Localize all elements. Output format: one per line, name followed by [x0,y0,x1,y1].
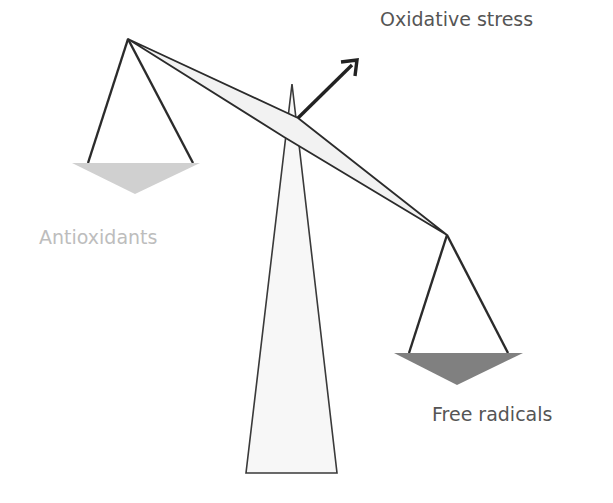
left-string-a [88,39,128,163]
label-antioxidants: Antioxidants [39,226,157,248]
free-radical-pan [394,353,523,385]
antioxidant-pan [72,163,200,194]
right-string-a [409,235,447,353]
right-string-b [447,235,508,353]
arrow-icon [298,60,357,118]
balance-scale-diagram [0,0,613,503]
label-free-radicals: Free radicals [432,403,552,425]
label-oxidative-stress: Oxidative stress [380,8,533,30]
